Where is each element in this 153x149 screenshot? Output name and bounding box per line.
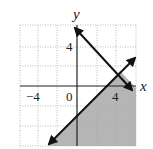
tick-label-4x: 4 xyxy=(112,89,119,104)
inequality-graph: y x −4 0 4 4 xyxy=(0,0,153,149)
tick-label-4y: 4 xyxy=(66,39,73,54)
tick-label-origin: 0 xyxy=(66,89,73,104)
shaded-region xyxy=(48,71,136,146)
tick-label-neg4: −4 xyxy=(26,89,40,104)
x-axis-label: x xyxy=(139,78,147,94)
y-axis-label: y xyxy=(71,6,80,22)
boundary-line-1 xyxy=(75,28,132,90)
